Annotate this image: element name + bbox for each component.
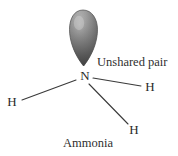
molecule-caption: Ammonia: [63, 136, 113, 150]
atom-label-hydrogen-left: H: [7, 94, 16, 109]
atom-label-nitrogen: N: [80, 68, 90, 83]
unshared-pair-annotation: Unshared pair: [97, 55, 168, 69]
atom-label-hydrogen-right: H: [145, 79, 154, 94]
unshared-pair-lobe-icon: [70, 10, 98, 66]
bond-n-h-bottom: [89, 84, 128, 124]
bond-n-h-left: [22, 80, 76, 100]
ammonia-diagram-canvas: N H H H Unshared pair Ammonia: [0, 0, 178, 156]
bond-n-h-right: [93, 78, 141, 86]
ammonia-figure: N H H H Unshared pair Ammonia: [0, 0, 178, 156]
atom-label-hydrogen-bottom: H: [129, 122, 138, 137]
